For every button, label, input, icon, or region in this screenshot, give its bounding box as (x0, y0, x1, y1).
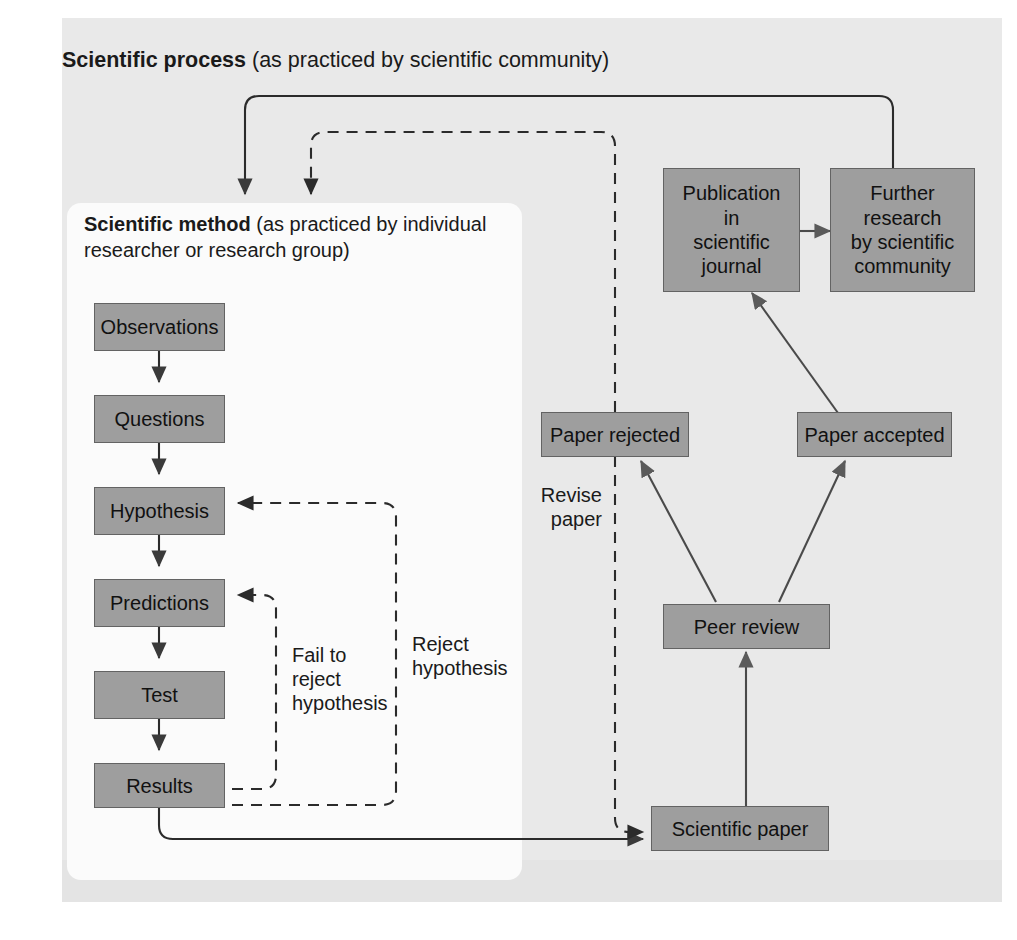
node-scientific-paper[interactable]: Scientific paper (651, 806, 829, 851)
node-hypothesis[interactable]: Hypothesis (94, 487, 225, 535)
revise-paper-loop-lower (615, 456, 643, 832)
diagram-canvas: Scientific process (as practiced by scie… (0, 0, 1017, 940)
node-observations[interactable]: Observations (94, 303, 225, 351)
node-paper-accepted[interactable]: Paper accepted (797, 412, 952, 457)
node-paper-rejected[interactable]: Paper rejected (541, 412, 689, 457)
accepted-to-publication-wire (752, 293, 838, 413)
revise-paper-loop-upper (311, 132, 615, 412)
label-reject-hypothesis: Reject hypothesis (412, 632, 508, 680)
node-publication-in-scientific-journal[interactable]: Publication in scientific journal (663, 168, 800, 292)
node-results[interactable]: Results (94, 763, 225, 808)
scientific-method-title-bold: Scientific method (84, 213, 251, 235)
page-title: Scientific process (as practiced by scie… (62, 47, 609, 75)
node-predictions[interactable]: Predictions (94, 579, 225, 627)
peer-review-to-accepted-wire (779, 461, 845, 602)
results-to-paper-wire (159, 806, 643, 839)
scientific-method-title: Scientific method (as practiced by indiv… (84, 212, 504, 263)
node-questions[interactable]: Questions (94, 395, 225, 443)
page-title-bold: Scientific process (62, 48, 246, 72)
peer-review-to-rejected-wire (641, 461, 716, 602)
page-title-rest: (as practiced by scientific community) (246, 48, 609, 72)
label-fail-to-reject-hypothesis: Fail to reject hypothesis (292, 643, 388, 715)
fail-to-reject-loop (232, 595, 276, 789)
node-test[interactable]: Test (94, 671, 225, 719)
node-peer-review[interactable]: Peer review (663, 604, 830, 649)
node-further-research-by-scientific-community[interactable]: Further research by scientific community (830, 168, 975, 292)
label-revise-paper: Revise paper (528, 483, 602, 531)
